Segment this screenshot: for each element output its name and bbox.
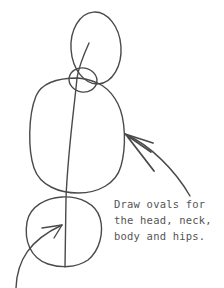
arrow-to-body — [125, 134, 190, 196]
neck-oval — [67, 66, 99, 94]
head-oval — [69, 10, 124, 85]
drawing-canvas — [0, 0, 224, 288]
caption-line-2: the head, neck, — [114, 212, 224, 228]
arrow-to-hips — [16, 225, 62, 288]
center-line — [65, 43, 89, 267]
hips-oval — [26, 197, 101, 267]
caption-line-1: Draw ovals for — [114, 196, 224, 212]
body-oval — [30, 78, 125, 193]
caption-line-3: body and hips. — [114, 228, 224, 244]
arrowhead-body — [125, 134, 154, 171]
caption-text: Draw ovals for the head, neck, body and … — [114, 196, 224, 244]
